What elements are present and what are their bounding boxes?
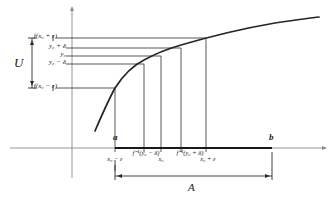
bracket-a-arrow-right-icon bbox=[265, 174, 270, 178]
xlabel-b: b bbox=[269, 133, 274, 142]
x-axis-arrow-icon bbox=[322, 146, 327, 150]
bracket-a-arrow-left-icon bbox=[117, 174, 122, 178]
xlabel-a: a bbox=[113, 133, 118, 142]
bracket-a-label: A bbox=[188, 182, 195, 193]
function-curve bbox=[95, 17, 319, 131]
ylabel-y0-plus-delta: y₀ + δ bbox=[49, 43, 66, 50]
vertical-drop-lines bbox=[115, 38, 206, 152]
ylabel-f-x0-minus-eps: f(x₀ − ε) bbox=[34, 83, 57, 90]
ylabel-f-x0-plus-eps: f(x₀ + ε) bbox=[34, 33, 57, 40]
xlabel-x0-minus-eps: x₀ − ε bbox=[107, 156, 122, 163]
xlabel-finv-y0-minus-delta: f⁻¹(y₀ − δ) bbox=[133, 150, 160, 157]
xlabel-x0-plus-eps: x₀ + ε bbox=[200, 156, 215, 163]
ylabel-y0-minus-delta: y₀ − δ bbox=[49, 59, 66, 66]
bracket-u bbox=[28, 38, 36, 88]
bracket-u-label: U bbox=[14, 56, 23, 69]
y-axis-arrow-icon bbox=[70, 6, 74, 11]
horizontal-level-lines bbox=[56, 38, 206, 88]
xlabel-x0: x₀ bbox=[158, 156, 163, 163]
ylabel-y0: y₀ bbox=[60, 51, 66, 58]
axes-group bbox=[10, 8, 325, 178]
diagram-canvas bbox=[0, 0, 329, 203]
bracket-u-arrow-up-icon bbox=[30, 40, 34, 45]
figure-container: f(x₀ + ε) y₀ + δ y₀ y₀ − δ f(x₀ − ε) U a… bbox=[0, 0, 329, 203]
